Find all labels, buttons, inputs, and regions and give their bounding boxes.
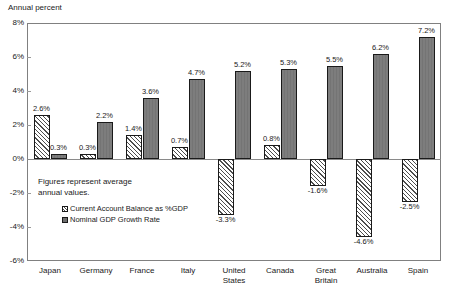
bar-current-account-balance[interactable] bbox=[310, 159, 326, 186]
bar-current-account-balance[interactable] bbox=[34, 115, 50, 159]
bar-nominal-gdp-growth[interactable] bbox=[235, 71, 251, 159]
y-tick-label: -6% bbox=[4, 257, 24, 265]
y-tick-mark bbox=[27, 193, 31, 194]
bar-nominal-gdp-growth[interactable] bbox=[373, 54, 389, 159]
y-tick-label: 6% bbox=[4, 53, 24, 61]
bar-value-label: -4.6% bbox=[349, 238, 379, 246]
bar-value-label: 3.6% bbox=[136, 88, 166, 96]
bar-value-label: -3.3% bbox=[211, 216, 241, 224]
bar-value-label: 2.2% bbox=[90, 112, 120, 120]
y-tick-mark bbox=[27, 125, 31, 126]
bar-current-account-balance[interactable] bbox=[172, 147, 188, 159]
bar-nominal-gdp-growth[interactable] bbox=[327, 66, 343, 160]
bar-value-label: 5.2% bbox=[228, 61, 258, 69]
bar-nominal-gdp-growth[interactable] bbox=[97, 122, 113, 159]
y-tick-label: 4% bbox=[4, 87, 24, 95]
bar-nominal-gdp-growth[interactable] bbox=[189, 79, 205, 159]
y-tick-label: -2% bbox=[4, 189, 24, 197]
x-tick-line: States bbox=[204, 276, 264, 286]
legend-label: Current Account Balance as %GDP bbox=[70, 203, 188, 214]
bar-current-account-balance[interactable] bbox=[218, 159, 234, 215]
y-tick-mark bbox=[27, 57, 31, 58]
bar-value-label: 6.2% bbox=[366, 44, 396, 52]
bar-value-label: 2.6% bbox=[27, 105, 57, 113]
y-tick-label: 0% bbox=[4, 155, 24, 163]
bar-value-label: 4.7% bbox=[182, 69, 212, 77]
x-tick-label: Spain bbox=[388, 266, 448, 276]
x-tick-line: Spain bbox=[388, 266, 448, 276]
x-tick-line: Britain bbox=[296, 276, 356, 286]
bar-value-label: 7.2% bbox=[412, 27, 442, 35]
legend-label: Nominal GDP Growth Rate bbox=[70, 214, 160, 225]
bar-current-account-balance[interactable] bbox=[264, 145, 280, 159]
bar-current-account-balance[interactable] bbox=[402, 159, 418, 202]
annotation-line-1: Figures represent average bbox=[38, 176, 132, 187]
bar-value-label: -2.5% bbox=[395, 203, 425, 211]
bar-value-label: 5.3% bbox=[274, 59, 304, 67]
legend-swatch-icon bbox=[62, 206, 68, 212]
chart-annotation: Figures represent average annual values. bbox=[38, 176, 132, 198]
y-tick-label: 8% bbox=[4, 19, 24, 27]
bar-current-account-balance[interactable] bbox=[356, 159, 372, 237]
bar-value-label: -1.6% bbox=[303, 187, 333, 195]
bar-value-label: 0.3% bbox=[44, 144, 74, 152]
y-tick-label: 2% bbox=[4, 121, 24, 129]
y-tick-mark bbox=[27, 227, 31, 228]
bar-nominal-gdp-growth[interactable] bbox=[281, 69, 297, 159]
bar-current-account-balance[interactable] bbox=[126, 135, 142, 159]
annotation-line-2: annual values. bbox=[38, 187, 132, 198]
chart-container: Annual percent 8% 6% 4% 2% 0% -2% -4% -6… bbox=[0, 0, 449, 299]
y-tick-label: -4% bbox=[4, 223, 24, 231]
legend-swatch-icon bbox=[62, 217, 68, 223]
bar-current-account-balance[interactable] bbox=[80, 154, 96, 159]
legend-item-current-account-balance: Current Account Balance as %GDP bbox=[62, 203, 188, 214]
legend-item-nominal-gdp-growth: Nominal GDP Growth Rate bbox=[62, 214, 188, 225]
legend: Current Account Balance as %GDP Nominal … bbox=[62, 203, 188, 225]
y-axis: 8% 6% 4% 2% 0% -2% -4% -6% bbox=[0, 0, 24, 299]
bar-nominal-gdp-growth[interactable] bbox=[419, 37, 435, 159]
bar-value-label: 5.5% bbox=[320, 56, 350, 64]
zero-baseline bbox=[27, 159, 441, 160]
bar-nominal-gdp-growth[interactable] bbox=[143, 98, 159, 159]
bar-nominal-gdp-growth[interactable] bbox=[51, 154, 67, 159]
y-tick-mark bbox=[27, 91, 31, 92]
